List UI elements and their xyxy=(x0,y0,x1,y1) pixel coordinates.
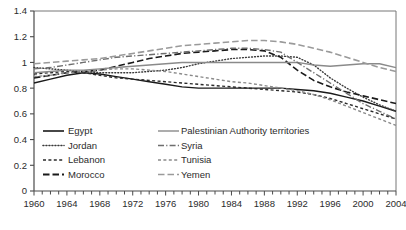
y-tick-label: 0.2 xyxy=(14,160,27,171)
legend-label: Tunisia xyxy=(181,154,212,165)
x-tick-label: 1972 xyxy=(122,198,143,209)
legend-label: Lebanon xyxy=(68,154,105,165)
y-tick-label: 1 xyxy=(22,57,27,68)
series-line-yemen xyxy=(34,41,396,72)
series-line-egypt xyxy=(34,73,396,112)
x-tick-label: 1984 xyxy=(221,198,242,209)
y-tick-label: 0 xyxy=(22,185,27,196)
x-tick-label: 1996 xyxy=(320,198,341,209)
legend-label: Syria xyxy=(181,140,203,151)
series-group xyxy=(34,41,396,126)
legend-item: Morocco xyxy=(43,169,104,180)
y-axis-tick-group: 00.20.40.60.811.21.4 xyxy=(14,5,34,196)
y-tick-label: 0.6 xyxy=(14,108,27,119)
series-line-lebanon xyxy=(34,71,396,119)
legend-item: Jordan xyxy=(43,140,97,151)
x-tick-label: 2004 xyxy=(385,198,406,209)
x-tick-label: 1964 xyxy=(56,198,77,209)
x-axis-tick-group: 1960196419681972197619801984198819921996… xyxy=(23,191,406,209)
x-tick-label: 1968 xyxy=(89,198,110,209)
x-tick-label: 1980 xyxy=(188,198,209,209)
legend-item: Egypt xyxy=(43,125,93,136)
y-tick-label: 1.2 xyxy=(14,31,27,42)
legend-item: Lebanon xyxy=(43,154,105,165)
series-line-tunisia xyxy=(34,69,396,126)
line-chart: 00.20.40.60.811.21.4 1960196419681972197… xyxy=(0,0,406,230)
series-line-syria xyxy=(34,48,396,119)
legend-label: Morocco xyxy=(68,169,104,180)
legend-item: Yemen xyxy=(158,169,210,180)
legend-item: Tunisia xyxy=(158,154,212,165)
legend-item: Syria xyxy=(158,140,203,151)
legend-label: Palestinian Authority territories xyxy=(181,125,310,136)
chart-container: 00.20.40.60.811.21.4 1960196419681972197… xyxy=(0,0,406,230)
y-tick-label: 1.4 xyxy=(14,5,27,16)
y-tick-label: 0.8 xyxy=(14,83,27,94)
series-line-jordan xyxy=(34,56,396,111)
y-tick-label: 0.4 xyxy=(14,134,27,145)
legend-item: Palestinian Authority territories xyxy=(158,125,310,136)
x-tick-label: 2000 xyxy=(353,198,374,209)
legend-label: Yemen xyxy=(181,169,210,180)
x-tick-label: 1960 xyxy=(23,198,44,209)
legend-label: Jordan xyxy=(68,140,97,151)
legend-label: Egypt xyxy=(68,125,93,136)
legend: EgyptJordanLebanonMoroccoPalestinian Aut… xyxy=(43,125,310,180)
x-tick-label: 1992 xyxy=(287,198,308,209)
x-tick-label: 1988 xyxy=(254,198,275,209)
x-tick-label: 1976 xyxy=(155,198,176,209)
